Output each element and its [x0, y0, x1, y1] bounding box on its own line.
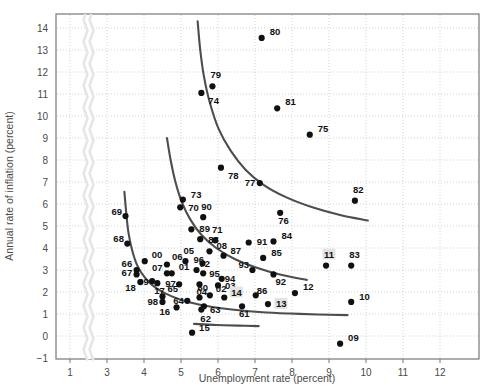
y-tick-label-8: 8	[42, 155, 48, 166]
y-tick-label-2: 2	[42, 287, 48, 298]
point-marker-08	[206, 248, 212, 254]
y-tick-label--1: −1	[37, 353, 49, 364]
point-label-64: 64	[173, 295, 184, 306]
point-marker-18	[137, 279, 143, 285]
y-tick-label-3: 3	[42, 265, 48, 276]
point-label-84: 84	[282, 230, 293, 241]
x-tick-label-11: 11	[398, 367, 409, 378]
point-label-11: 11	[324, 249, 335, 260]
point-label-95: 95	[209, 268, 220, 279]
point-marker-13	[265, 301, 271, 307]
point-marker-16	[173, 304, 179, 310]
point-label-86: 86	[257, 285, 268, 296]
point-marker-73	[180, 197, 186, 203]
point-marker-00	[142, 258, 148, 264]
x-tick-label-5: 5	[178, 367, 184, 378]
point-label-81: 81	[285, 96, 296, 107]
point-label-12: 12	[303, 281, 314, 292]
point-marker-89	[188, 226, 194, 232]
y-tick-label-11: 11	[38, 89, 49, 100]
point-label-76: 76	[278, 215, 289, 226]
point-marker-11	[323, 263, 329, 269]
y-tick-label-10: 10	[37, 111, 49, 122]
x-tick-label-4: 4	[141, 367, 147, 378]
y-axis-ticks: −101234567891011121314	[37, 23, 49, 364]
y-tick-label-12: 12	[37, 67, 49, 78]
point-label-92: 92	[276, 276, 287, 287]
point-label-07: 07	[152, 262, 163, 273]
point-marker-77	[257, 180, 263, 186]
point-label-93: 93	[238, 259, 249, 270]
point-marker-81	[274, 105, 280, 111]
point-marker-80	[259, 35, 265, 41]
chart-root: 8079748175787782737090697689887168089184…	[0, 0, 481, 387]
y-tick-label-5: 5	[42, 221, 48, 232]
point-label-98: 98	[148, 296, 159, 307]
point-marker-98	[159, 299, 165, 305]
point-label-16: 16	[160, 306, 171, 317]
point-marker-79	[209, 83, 215, 89]
y-tick-label-6: 6	[42, 199, 48, 210]
point-marker-06	[164, 261, 170, 267]
point-label-85: 85	[271, 247, 282, 258]
point-label-83: 83	[349, 249, 360, 260]
point-label-68: 68	[113, 233, 124, 244]
point-label-70: 70	[188, 202, 199, 213]
point-marker-91	[246, 239, 252, 245]
point-marker-93	[249, 267, 255, 273]
y-tick-label-9: 9	[42, 133, 48, 144]
point-marker-75	[307, 132, 313, 138]
point-label-13: 13	[276, 298, 287, 309]
point-label-61: 61	[239, 308, 250, 319]
point-marker-87	[220, 253, 226, 259]
point-marker-10	[348, 299, 354, 305]
x-tick-label-1: 1	[67, 367, 73, 378]
point-marker-07	[164, 270, 170, 276]
y-axis-title: Annual rate of inflation (percent)	[3, 111, 15, 260]
point-label-01: 01	[179, 261, 190, 272]
point-label-69: 69	[112, 206, 123, 217]
y-tick-label-0: 0	[42, 331, 48, 342]
point-label-09: 09	[348, 332, 359, 343]
y-tick-label-1: 1	[42, 309, 48, 320]
point-marker-78	[218, 165, 224, 171]
point-label-87: 87	[231, 245, 242, 256]
point-marker-68	[124, 241, 130, 247]
point-label-77: 77	[245, 177, 256, 188]
point-marker-14	[221, 294, 227, 300]
point-label-74: 74	[208, 95, 219, 106]
point-label-90: 90	[201, 201, 212, 212]
point-marker-99	[149, 278, 155, 284]
point-marker-84	[270, 238, 276, 244]
point-label-65: 65	[168, 283, 179, 294]
point-label-06: 06	[172, 251, 183, 262]
y-tick-label-4: 4	[42, 243, 48, 254]
point-label-63: 63	[210, 304, 221, 315]
point-marker-15	[189, 330, 195, 336]
y-tick-label-14: 14	[37, 23, 49, 34]
point-label-08: 08	[216, 240, 227, 251]
point-marker-82	[352, 198, 358, 204]
point-marker-09	[337, 341, 343, 347]
point-label-79: 79	[210, 69, 221, 80]
x-tick-label-10: 10	[360, 367, 372, 378]
point-label-71: 71	[212, 224, 223, 235]
phillips-curve-scatter-chart: 8079748175787782737090697689887168089184…	[0, 0, 481, 387]
point-label-60: 60	[198, 282, 209, 293]
point-marker-74	[198, 90, 204, 96]
y-tick-label-7: 7	[42, 177, 48, 188]
point-marker-83	[348, 263, 354, 269]
x-tick-label-12: 12	[434, 367, 446, 378]
point-label-78: 78	[228, 170, 239, 181]
x-tick-label-3: 3	[104, 367, 110, 378]
point-marker-69	[122, 213, 128, 219]
point-marker-88	[197, 236, 203, 242]
point-marker-65	[159, 293, 165, 299]
point-marker-96	[193, 267, 199, 273]
point-label-10: 10	[359, 291, 370, 302]
point-label-89: 89	[199, 223, 210, 234]
point-label-14: 14	[231, 287, 242, 298]
point-label-73: 73	[191, 189, 202, 200]
point-label-18: 18	[125, 282, 136, 293]
point-label-02: 02	[216, 283, 227, 294]
